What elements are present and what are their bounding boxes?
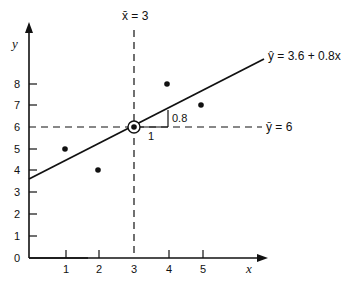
centroid-point (131, 124, 137, 130)
run-label: 1 (148, 130, 154, 142)
x-tick-5: 5 (200, 263, 206, 275)
y-tick-3: 3 (14, 186, 20, 198)
data-point (95, 167, 101, 173)
x-tick-2: 2 (96, 263, 102, 275)
data-point (62, 146, 68, 152)
x-axis-arrow-icon (257, 254, 268, 262)
y-ticks (29, 84, 37, 236)
x-tick-3: 3 (131, 263, 137, 275)
y-axis-label: y (10, 36, 18, 51)
regression-equation: ŷ = 3.6 + 0.8x (268, 49, 341, 63)
x-bar-label: x̄ = 3 (122, 9, 149, 23)
y-tick-6: 6 (14, 121, 20, 133)
y-tick-8: 8 (14, 78, 20, 90)
y-tick-2: 2 (14, 208, 20, 220)
y-tick-4: 4 (14, 164, 20, 176)
x-tick-4: 4 (166, 263, 172, 275)
y-bar-label: ȳ = 6 (266, 120, 293, 134)
y-tick-0: 0 (14, 252, 20, 264)
y-tick-7: 7 (14, 99, 20, 111)
y-tick-1: 1 (14, 230, 20, 242)
rise-label: 0.8 (172, 112, 187, 124)
y-axis-arrow-icon (25, 22, 33, 33)
x-axis-label: x (245, 261, 252, 276)
data-point (198, 102, 204, 108)
regression-diagram: 0 1 2 3 4 5 6 7 8 1 2 3 4 5 y x x̄ = 3 ȳ… (0, 0, 343, 287)
x-tick-1: 1 (63, 263, 69, 275)
y-tick-5: 5 (14, 143, 20, 155)
regression-line (29, 59, 264, 179)
data-point (164, 81, 170, 87)
